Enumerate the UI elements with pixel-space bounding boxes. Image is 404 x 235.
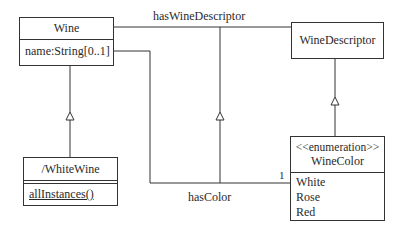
enum-header: <<enumeration>> WineColor <box>291 137 384 173</box>
enum-literal: White <box>291 175 384 190</box>
class-winedescriptor[interactable]: WineDescriptor <box>291 22 384 59</box>
has-color-line[interactable] <box>114 51 290 183</box>
enum-literals: White Rose Red <box>291 173 384 220</box>
class-name: /WhiteWine <box>24 158 117 180</box>
association-label-haswinedescriptor: hasWineDescriptor <box>153 9 245 24</box>
multiplicity-label: 1 <box>279 169 285 181</box>
generalization-arrow-icon <box>66 112 74 120</box>
class-wine[interactable]: Wine name:String[0..1] <box>19 17 114 66</box>
class-name: WineColor <box>291 154 384 169</box>
enum-literal: Red <box>291 205 384 220</box>
stereotype: <<enumeration>> <box>291 140 384 154</box>
enumeration-winecolor[interactable]: <<enumeration>> WineColor White Rose Red <box>290 136 385 221</box>
class-name: Wine <box>20 18 113 40</box>
generalization-arrow-icon <box>216 112 224 120</box>
enum-literal: Rose <box>291 190 384 205</box>
generalization-arrow-icon <box>331 97 339 105</box>
attribute: name:String[0..1] <box>20 40 113 59</box>
association-label-hascolor: hasColor <box>188 190 231 205</box>
class-name: WineDescriptor <box>292 23 383 58</box>
class-whitewine[interactable]: /WhiteWine allInstances() <box>23 157 118 206</box>
operation: allInstances() <box>24 184 117 202</box>
